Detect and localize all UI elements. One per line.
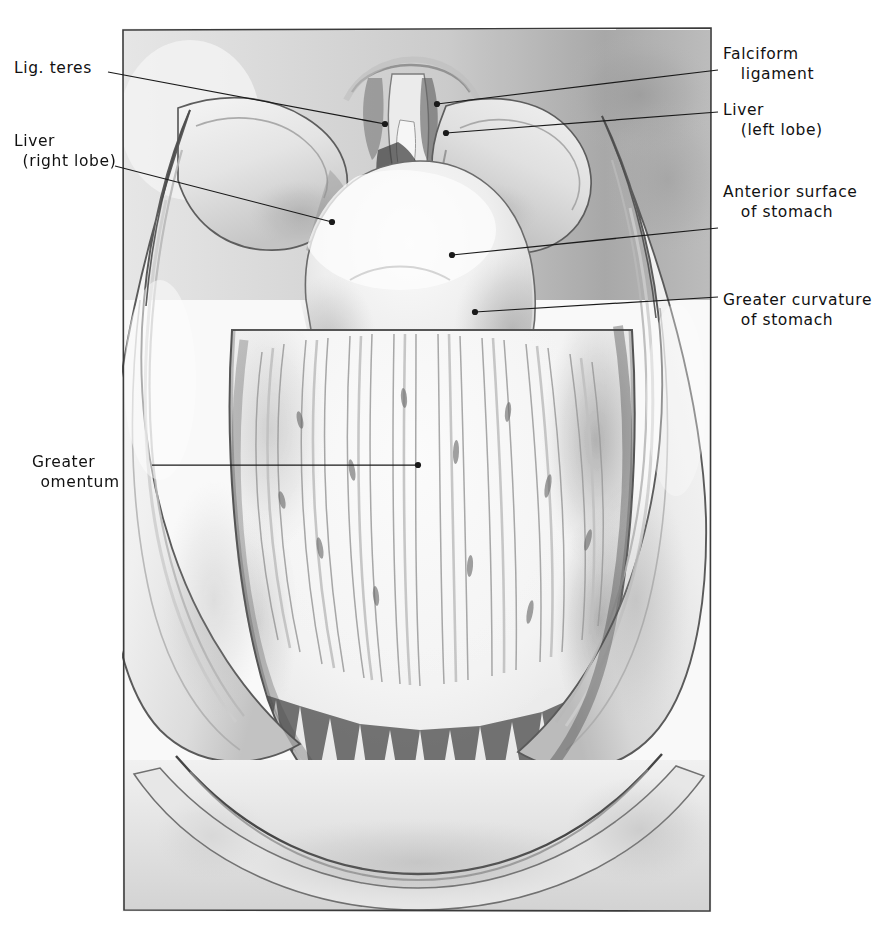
paper-grain [122, 28, 712, 912]
label-greater-curvature-of-stomach-line-1: Greater curvature [723, 290, 872, 310]
label-liver-right-lobe: Liver(right lobe) [14, 131, 116, 171]
label-falciform-ligament-line-2: ligament [723, 64, 814, 84]
label-liver-left-lobe-line-1: Liver [723, 100, 823, 120]
label-falciform-ligament: Falciformligament [723, 44, 814, 84]
leader-dot-anterior-surface-of-stomach [449, 252, 455, 258]
label-greater-curvature-of-stomach: Greater curvatureof stomach [723, 290, 872, 330]
label-anterior-surface-of-stomach-line-2: of stomach [723, 202, 857, 222]
label-greater-omentum-line-1: Greater [32, 452, 120, 472]
label-liver-right-lobe-line-2: (right lobe) [14, 151, 116, 171]
label-liver-left-lobe: Liver(left lobe) [723, 100, 823, 140]
leader-dot-greater-omentum [415, 462, 421, 468]
leader-dot-lig-teres [382, 121, 388, 127]
label-greater-omentum-line-2: omentum [32, 472, 120, 492]
label-greater-omentum: Greateromentum [32, 452, 120, 492]
leader-dot-greater-curvature-of-stomach [472, 309, 478, 315]
leader-dot-liver-right-lobe [329, 219, 335, 225]
label-liver-left-lobe-line-2: (left lobe) [723, 120, 823, 140]
label-falciform-ligament-line-1: Falciform [723, 44, 814, 64]
leader-dot-falciform-ligament [434, 101, 440, 107]
label-greater-curvature-of-stomach-line-2: of stomach [723, 310, 872, 330]
label-lig-teres: Lig. teres [14, 58, 92, 78]
label-liver-right-lobe-line-1: Liver [14, 131, 116, 151]
label-lig-teres-line-1: Lig. teres [14, 58, 92, 78]
label-anterior-surface-of-stomach-line-1: Anterior surface [723, 182, 857, 202]
illustration-body [108, 28, 730, 912]
label-anterior-surface-of-stomach: Anterior surfaceof stomach [723, 182, 857, 222]
leader-dot-liver-left-lobe [443, 130, 449, 136]
